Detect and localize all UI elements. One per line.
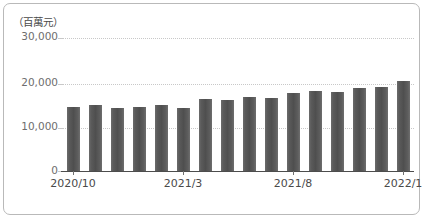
bar	[243, 97, 256, 171]
x-tick-label: 2021/8	[274, 177, 313, 190]
x-tick-label: 2021/3	[164, 177, 203, 190]
bar	[177, 108, 190, 171]
x-tick-label: 2020/10	[50, 177, 96, 190]
bar	[375, 87, 388, 171]
x-tick-mark	[403, 171, 404, 175]
bar	[397, 81, 410, 171]
bar	[353, 88, 366, 171]
bar	[133, 107, 146, 171]
x-tick-mark	[293, 171, 294, 175]
bar-series	[62, 34, 414, 171]
y-axis-unit-label: （百萬元）	[13, 14, 63, 29]
bar	[309, 91, 322, 171]
bar	[265, 98, 278, 171]
x-tick-label: 2022/1	[384, 177, 423, 190]
plot-area	[62, 34, 414, 171]
bar	[221, 100, 234, 171]
y-tick-label-10000: 10,000	[6, 120, 58, 132]
bar	[331, 92, 344, 171]
bar	[287, 93, 300, 171]
y-axis-tick-labels: 30,000 20,000 10,000 0	[4, 34, 58, 171]
x-tick-mark	[73, 171, 74, 175]
chart-screenshot: （百萬元） 30,000 20,000 10,000 0 2020/102021…	[0, 0, 425, 220]
y-tick-label-0: 0	[6, 164, 58, 176]
x-tick-mark	[183, 171, 184, 175]
bar	[111, 108, 124, 171]
y-tick-label-20000: 20,000	[6, 76, 58, 88]
bar	[155, 105, 168, 172]
bar	[199, 99, 212, 171]
bar	[89, 105, 102, 171]
y-tick-label-30000: 30,000	[6, 30, 58, 42]
bar	[67, 107, 80, 171]
x-axis-line	[61, 171, 414, 172]
